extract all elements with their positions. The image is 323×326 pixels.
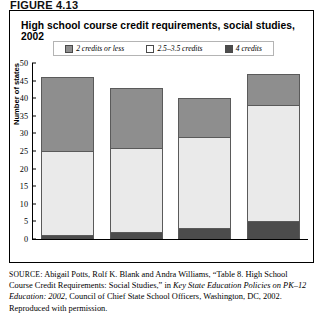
y-tick-label: 40 bbox=[20, 94, 32, 103]
y-tick-label: 10 bbox=[20, 199, 32, 208]
stacked-bar[interactable] bbox=[41, 77, 94, 239]
y-tick-label: 35 bbox=[20, 111, 32, 120]
chart-panel: High school course credit requirements, … bbox=[9, 10, 314, 263]
bar-group bbox=[33, 63, 308, 239]
bar-segment-4-credits bbox=[247, 221, 300, 239]
bar-segment-2-5-3-5-credits bbox=[110, 148, 163, 232]
y-tick-label: 25 bbox=[20, 147, 32, 156]
bar-slot bbox=[239, 63, 308, 239]
legend-swatch-icon-4-credits bbox=[225, 45, 233, 53]
bar-slot bbox=[171, 63, 240, 239]
bar-segment-2-credits-or-less bbox=[110, 88, 163, 148]
bar-segment-4-credits bbox=[110, 232, 163, 239]
plot-area: Number of states 05101520253035404550 bbox=[10, 63, 313, 262]
bar-segment-2-credits-or-less bbox=[41, 77, 94, 151]
source-line-3: , Council of Chief State bbox=[65, 292, 144, 301]
stacked-bar[interactable] bbox=[178, 98, 231, 239]
bar-slot bbox=[102, 63, 171, 239]
bar-segment-4-credits bbox=[41, 235, 94, 239]
y-tick-label: 5 bbox=[24, 217, 32, 226]
figure-container: FIGURE 4.13 High school course credit re… bbox=[0, 0, 323, 326]
y-tick-label: 50 bbox=[20, 59, 32, 68]
y-tick-label: 20 bbox=[20, 164, 32, 173]
source-line-1: : Abigail Potts, Rolf K. Blank and Andra… bbox=[40, 270, 243, 279]
y-tick-label: 45 bbox=[20, 76, 32, 85]
bar-segment-2-5-3-5-credits bbox=[41, 151, 94, 235]
stacked-bar[interactable] bbox=[110, 88, 163, 239]
legend-item-2-credits-or-less: 2 credits or less bbox=[65, 44, 124, 53]
legend-label-2-credits-or-less: 2 credits or less bbox=[76, 44, 124, 53]
bar-slot bbox=[33, 63, 102, 239]
bar-segment-4-credits bbox=[178, 228, 231, 239]
bar-segment-2-credits-or-less bbox=[178, 98, 231, 137]
legend-swatch-icon-2-credits-or-less bbox=[65, 45, 73, 53]
bar-segment-2-5-3-5-credits bbox=[178, 137, 231, 229]
legend-swatch-icon-2-5-3-5-credits bbox=[146, 45, 154, 53]
source-prefix: SOURCE bbox=[9, 270, 40, 279]
y-tick-label: 30 bbox=[20, 129, 32, 138]
figure-label: FIGURE 4.13 bbox=[10, 0, 314, 9]
source-italic-1: Key State bbox=[173, 281, 205, 290]
bar-segment-2-5-3-5-credits bbox=[247, 105, 300, 221]
stacked-bar[interactable] bbox=[247, 74, 300, 239]
legend-label-2-5-3-5-credits: 2.5–3.5 credits bbox=[157, 44, 202, 53]
axes: 05101520253035404550 bbox=[32, 63, 308, 262]
y-tick-label: 0 bbox=[24, 235, 32, 244]
y-tick-label: 15 bbox=[20, 182, 32, 191]
chart-legend: 2 credits or less 2.5–3.5 credits 4 cred… bbox=[53, 41, 274, 56]
x-axis-line bbox=[32, 239, 308, 240]
legend-label-4-credits: 4 credits bbox=[236, 44, 262, 53]
chart-title: High school course credit requirements, … bbox=[21, 20, 313, 42]
legend-item-2-5-3-5-credits: 2.5–3.5 credits bbox=[146, 44, 202, 53]
legend-item-4-credits: 4 credits bbox=[225, 44, 262, 53]
bar-segment-2-credits-or-less bbox=[247, 74, 300, 106]
source-note: SOURCE: Abigail Potts, Rolf K. Blank and… bbox=[9, 269, 312, 314]
